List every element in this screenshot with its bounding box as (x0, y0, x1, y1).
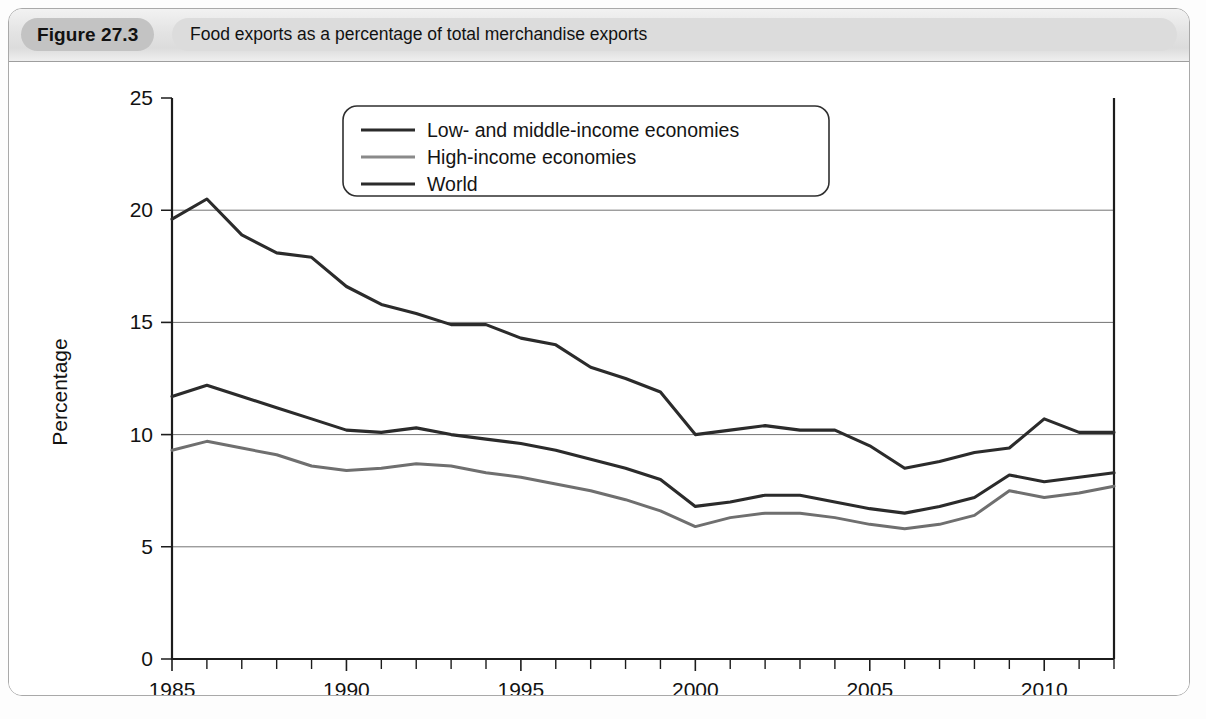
legend-label: High-income economies (427, 146, 636, 168)
line-chart: 198519901995200020052010 0510152025 Perc… (9, 62, 1190, 695)
figure-header: Figure 27.3 Food exports as a percentage… (9, 9, 1189, 62)
y-tick-label: 25 (130, 86, 153, 109)
x-tick-label: 2005 (846, 678, 893, 695)
y-axis-ticks: 0510152025 (130, 86, 172, 670)
y-tick-label: 5 (141, 535, 153, 558)
x-tick-label: 1995 (498, 678, 545, 695)
y-tick-label: 0 (141, 647, 153, 670)
x-tick-label: 1990 (323, 678, 370, 695)
series-line (172, 385, 1114, 513)
x-tick-label: 1985 (149, 678, 196, 695)
legend-label: Low- and middle-income economies (427, 119, 739, 141)
figure-title: Food exports as a percentage of total me… (172, 18, 1177, 51)
chart-legend: Low- and middle-income economiesHigh-inc… (343, 106, 829, 196)
y-tick-label: 15 (130, 310, 153, 333)
chart-plot-area: 198519901995200020052010 0510152025 Perc… (9, 62, 1190, 695)
legend-label: World (427, 173, 478, 195)
y-tick-label: 20 (130, 198, 153, 221)
x-tick-label: 2000 (672, 678, 719, 695)
figure-frame: Figure 27.3 Food exports as a percentage… (8, 8, 1190, 696)
series-line (172, 199, 1114, 468)
figure-page: Figure 27.3 Food exports as a percentage… (0, 0, 1206, 719)
x-tick-label: 2010 (1021, 678, 1068, 695)
figure-number-badge: Figure 27.3 (21, 18, 154, 51)
y-axis-title: Percentage (48, 338, 71, 445)
x-axis-ticks: 198519901995200020052010 (149, 659, 1114, 695)
y-tick-label: 10 (130, 423, 153, 446)
chart-series-group (172, 199, 1114, 529)
